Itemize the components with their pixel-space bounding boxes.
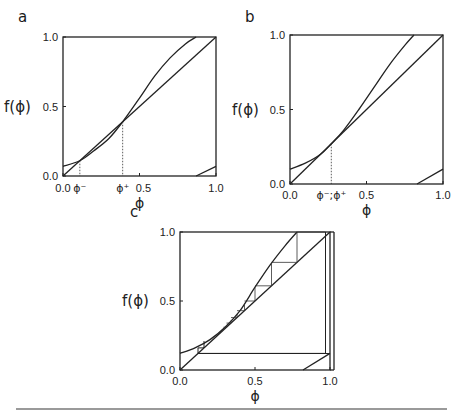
bottom-rule [16, 408, 447, 410]
x-tick-label: 0.5 [136, 182, 151, 194]
fixed-point-label: ϕ⁻;ϕ⁺ [316, 189, 346, 202]
x-tick-label: 1.0 [208, 182, 223, 194]
y-tick-label: 0.0 [43, 170, 58, 182]
x-tick-label: 0.5 [247, 375, 262, 387]
y-tick-label: 0.5 [160, 295, 175, 307]
map-curve [180, 232, 297, 353]
map-curve-wrapped [417, 169, 443, 184]
x-tick-label: 0.0 [55, 182, 70, 194]
y-axis-label: f(ϕ) [232, 101, 259, 119]
y-tick-label: 0.5 [270, 104, 285, 116]
map-curve [63, 37, 196, 166]
y-axis-label: f(ϕ) [122, 292, 149, 310]
x-tick-label: 0.0 [282, 189, 297, 201]
identity-line [290, 35, 443, 184]
y-axis-label: f(ϕ) [4, 98, 31, 116]
x-tick-label: 0.5 [359, 189, 374, 201]
map-curve-wrapped [196, 166, 216, 176]
y-tick-label: 1.0 [270, 29, 285, 41]
x-axis-label: ϕ [362, 202, 371, 218]
x-axis-label: ϕ [135, 195, 144, 211]
y-tick-label: 1.0 [43, 31, 58, 43]
identity-line [63, 37, 216, 176]
figure-canvas: 0.00.51.00.00.51.0ϕf(ϕ)ϕ⁻ϕ⁺0.00.51.00.00… [0, 0, 459, 420]
x-axis-label: ϕ [250, 388, 259, 404]
x-tick-label: 0.0 [172, 375, 187, 387]
y-tick-label: 1.0 [160, 226, 175, 238]
x-tick-label: 1.0 [435, 189, 450, 201]
fixed-point-label: ϕ⁻ [73, 182, 86, 195]
map-curve [290, 35, 414, 169]
y-tick-label: 0.5 [43, 101, 58, 113]
fixed-point-label: ϕ⁺ [116, 182, 129, 195]
map-curve-wrapped [303, 353, 330, 370]
x-tick-label: 1.0 [322, 375, 337, 387]
